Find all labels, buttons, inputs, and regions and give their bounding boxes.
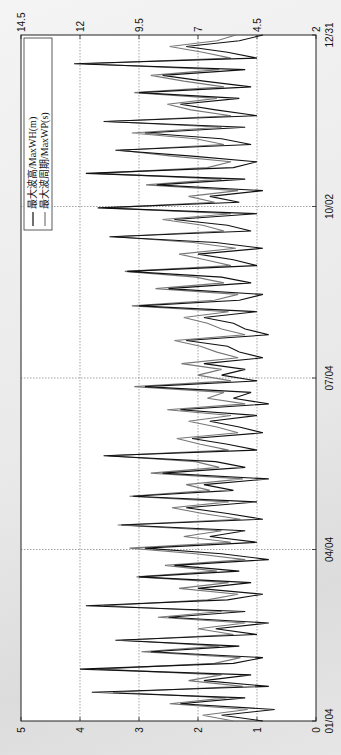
- tick-label: 14.5: [16, 12, 27, 32]
- tick-label: 7: [193, 26, 204, 32]
- tick-label: 3: [134, 727, 145, 733]
- legend-label-wave-period: 最大波周期/MaxWP(s): [38, 112, 51, 209]
- tick-label: 2: [193, 727, 204, 733]
- tick-label: 5: [16, 727, 27, 733]
- tick-label: 4: [75, 727, 86, 733]
- tick-label: 9.5: [134, 18, 145, 32]
- date-tick-label: 07/04: [324, 365, 335, 390]
- tick-label: 2: [311, 26, 322, 32]
- tick-label: 12: [75, 20, 86, 32]
- wave-chart: 012345 24.579.51214.5 01/0404/0407/0410/…: [0, 0, 341, 755]
- date-tick-label: 10/02: [324, 194, 335, 219]
- tick-label: 4.5: [252, 18, 263, 32]
- date-tick-label: 12/31: [324, 22, 335, 47]
- date-tick-label: 04/04: [324, 537, 335, 562]
- date-tick-label: 01/04: [324, 708, 335, 733]
- tick-label: 1: [252, 727, 263, 733]
- legend: 最大波高/MaxWH(m) 最大波周期/MaxWP(s): [24, 38, 52, 230]
- tick-label: 0: [311, 727, 322, 733]
- legend-label-wave-height: 最大波高/MaxWH(m): [26, 117, 39, 209]
